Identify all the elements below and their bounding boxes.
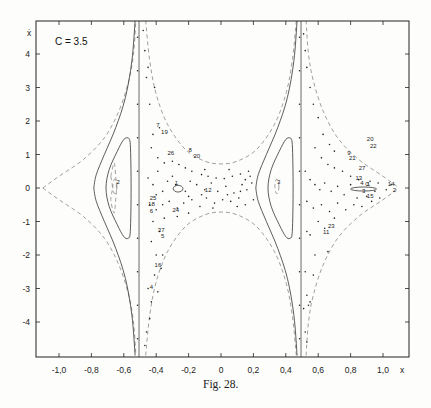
vertical-lines — [139, 21, 301, 357]
scatter-point — [304, 271, 306, 273]
orbit-label: 25 — [150, 195, 157, 201]
scatter-point — [199, 206, 201, 208]
scatter-point — [308, 304, 310, 306]
scatter-point — [154, 274, 156, 276]
scatter-point — [157, 170, 159, 172]
scatter-point — [137, 70, 139, 72]
orbit-label: 8 — [189, 147, 193, 153]
scatter-point — [309, 87, 311, 89]
scatter-point — [164, 217, 166, 219]
scatter-point — [230, 201, 232, 203]
dashed-curve-right-outer-upper — [306, 21, 399, 189]
orbit-annotations: 7192682011225186243751642320229212713131… — [117, 122, 397, 289]
scatter-point — [157, 291, 159, 293]
orbit-label: 20 — [193, 153, 200, 159]
scatter-point — [330, 191, 332, 193]
scatter-point — [314, 147, 316, 149]
scatter-point — [249, 175, 251, 177]
scatter-point — [304, 50, 306, 52]
orbit-label: 24 — [172, 207, 179, 213]
scatter-point — [319, 189, 321, 191]
y-tick-label: -2 — [22, 250, 30, 260]
scatter-point — [137, 204, 139, 206]
scatter-point — [299, 271, 301, 273]
scatter-point — [306, 341, 308, 343]
orbit-label: 26 — [168, 150, 175, 156]
scatter-point — [206, 197, 208, 199]
orbit-label: 2 — [117, 179, 121, 185]
scatter-point — [345, 209, 347, 211]
scatter-point — [314, 254, 316, 256]
scatter-point — [309, 234, 311, 236]
scatter-point — [309, 301, 311, 303]
dashed-curve-left-outer-lower — [43, 188, 136, 356]
scatter-point — [151, 147, 153, 149]
scatter-point — [303, 33, 305, 35]
scatter-point — [137, 338, 139, 340]
scatter-point — [245, 179, 247, 181]
scatter-point — [309, 179, 311, 181]
scatter-point — [223, 178, 225, 180]
scatter-point — [151, 241, 153, 243]
scatter-point — [317, 221, 319, 223]
scatter-point — [191, 199, 193, 201]
scatter-point — [299, 170, 301, 172]
scatter-point — [314, 184, 316, 186]
scatter-point — [324, 182, 326, 184]
scatter-point — [329, 211, 331, 213]
scatter-point — [228, 169, 230, 171]
scatter-point — [342, 170, 344, 172]
phase-curves — [43, 21, 399, 356]
dashed-curve-right-outer-lower — [306, 188, 399, 356]
scatter-point — [313, 207, 315, 209]
scatter-point — [147, 177, 149, 179]
scatter-point — [168, 201, 170, 203]
scatter-point — [304, 170, 306, 172]
scatter-point — [215, 177, 217, 179]
x-tick-label: -1,0 — [52, 365, 67, 375]
figure: -1,0-0,8-0,6-0,4-0,200,20,40,60,81,04321… — [0, 0, 431, 408]
scatter-point — [299, 338, 301, 340]
scatter-point — [337, 186, 339, 188]
scatter-point — [172, 160, 174, 162]
scatter-point — [152, 221, 154, 223]
scatter-point — [299, 304, 301, 306]
orbit-label: 21 — [349, 155, 356, 161]
orbit-label: 20 — [367, 136, 374, 142]
dashed-curve-left-inner-orbit — [111, 163, 117, 213]
scatter-point — [303, 308, 305, 310]
scatter-point — [162, 204, 164, 206]
scatter-point — [327, 251, 329, 253]
scatter-point — [204, 169, 206, 171]
scatter-point — [207, 175, 209, 177]
scatter-point — [137, 170, 139, 172]
scatter-point — [147, 288, 149, 290]
scatter-point — [146, 77, 148, 79]
orbit-label: 4 — [360, 180, 364, 186]
plot-frame — [36, 21, 409, 357]
y-axis-label: ẋ — [27, 28, 32, 38]
x-tick-label: 0 — [219, 365, 224, 375]
scatter-point — [313, 274, 315, 276]
x-tick-label: -0,6 — [116, 365, 131, 375]
y-tick-label: 2 — [25, 116, 30, 126]
orbit-label: 1 — [175, 180, 179, 186]
scatter-point — [147, 67, 149, 69]
scatter-point — [306, 294, 308, 296]
scatter-point — [188, 196, 190, 198]
scatter-point — [334, 217, 336, 219]
scatter-point — [183, 202, 185, 204]
scatter-point — [191, 170, 193, 172]
scatter-point — [350, 184, 352, 186]
x-tick-label: -0,8 — [84, 365, 99, 375]
scatter-point — [201, 174, 203, 176]
scatter-point — [240, 173, 242, 175]
scatter-point — [299, 204, 301, 206]
y-tick-label: 4 — [25, 49, 30, 59]
scatter-point — [233, 192, 235, 194]
scatter-point — [137, 137, 139, 139]
scatter-point — [162, 254, 164, 256]
scatter-point — [350, 175, 352, 177]
scatter-point — [248, 170, 250, 172]
x-tick-label: 0,6 — [312, 365, 324, 375]
